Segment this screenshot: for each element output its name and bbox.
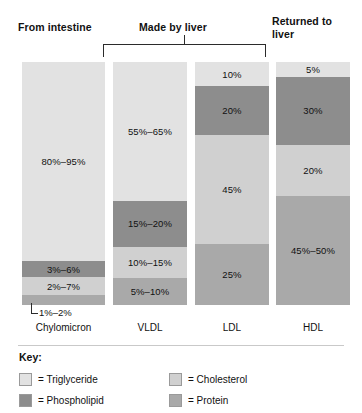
stacked-bar-vldl: 55%–65% 15%–20% 10%–15% 5%–10% [113, 62, 187, 305]
bar-segment-vldl-triglyceride: 55%–65% [113, 62, 187, 201]
bar-segment-ldl-phospholipid: 20% [195, 86, 269, 135]
bar-segment-ldl-triglyceride: 10% [195, 62, 269, 86]
axis-label-ldl: LDL [195, 322, 269, 334]
axis-label-vldl: VLDL [113, 322, 187, 334]
bar-segment-hdl-protein: 45%–50% [276, 196, 350, 305]
bar-segment-vldl-cholesterol: 10%–15% [113, 247, 187, 279]
stacked-bar-chylomicron: 80%–95% 3%–6% 2%–7% [22, 62, 105, 305]
bar-segment-hdl-triglyceride: 5% [276, 62, 350, 77]
stacked-bar-hdl: 5% 30% 20% 45%–50% [276, 62, 350, 305]
bar-segment-ldl-protein: 25% [195, 244, 269, 305]
bar-segment-vldl-phospholipid: 15%–20% [113, 201, 187, 247]
bar-segment-chylomicron-protein [22, 295, 105, 305]
key-divider [18, 345, 344, 346]
legend-swatch-phospholipid [19, 394, 32, 407]
callout-leader-elbow-chylomicron-protein [31, 313, 38, 314]
legend-item-protein: = Protein [169, 394, 319, 407]
key-legend: = Triglyceride = Cholesterol = Phospholi… [19, 369, 349, 411]
legend-item-cholesterol: = Cholesterol [169, 373, 319, 386]
lipoprotein-composition-figure: From intestine Made by liver Returned to… [0, 0, 362, 413]
group-heading-from-intestine: From intestine [18, 21, 128, 34]
group-heading-made-by-liver: Made by liver [139, 21, 249, 34]
legend-item-triglyceride: = Triglyceride [19, 373, 169, 386]
stacked-bar-ldl: 10% 20% 45% 25% [195, 62, 269, 305]
bar-segment-hdl-cholesterol: 20% [276, 145, 350, 196]
bar-segment-chylomicron-triglyceride: 80%–95% [22, 62, 105, 261]
legend-label-phospholipid: = Phospholipid [38, 395, 104, 407]
axis-label-chylomicron: Chylomicron [16, 322, 111, 334]
bar-segment-ldl-cholesterol: 45% [195, 135, 269, 244]
bracket-made-by-liver [103, 44, 266, 57]
axis-label-hdl: HDL [276, 322, 350, 334]
legend-swatch-cholesterol [169, 373, 182, 386]
bar-segment-chylomicron-cholesterol: 2%–7% [22, 277, 105, 295]
key-title: Key: [19, 351, 42, 363]
callout-label-chylomicron-protein: 1%–2% [39, 307, 72, 319]
legend-label-triglyceride: = Triglyceride [38, 374, 98, 386]
legend-label-cholesterol: = Cholesterol [188, 374, 247, 386]
legend-swatch-protein [169, 394, 182, 407]
bar-segment-chylomicron-phospholipid: 3%–6% [22, 261, 105, 277]
legend-swatch-triglyceride [19, 373, 32, 386]
legend-item-phospholipid: = Phospholipid [19, 394, 169, 407]
bar-segment-hdl-phospholipid: 30% [276, 77, 350, 145]
group-heading-returned-to-liver: Returned to liver [272, 15, 356, 40]
bar-segment-vldl-protein: 5%–10% [113, 278, 187, 305]
legend-label-protein: = Protein [188, 395, 228, 407]
